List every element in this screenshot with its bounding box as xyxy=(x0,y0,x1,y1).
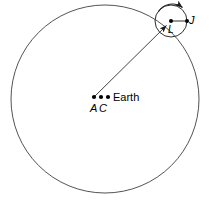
diagram-canvas: Earth A C J L xyxy=(0,0,209,203)
point-earth-dot xyxy=(106,95,110,99)
point-a-dot xyxy=(92,95,96,99)
point-c-dot xyxy=(99,95,103,99)
label-a: A xyxy=(90,103,97,114)
point-l-dot xyxy=(169,19,173,23)
label-c: C xyxy=(99,103,107,114)
label-earth: Earth xyxy=(113,92,139,103)
label-l: L xyxy=(168,25,174,35)
equant-to-epicycle-line xyxy=(94,26,167,98)
label-j: J xyxy=(189,15,195,26)
